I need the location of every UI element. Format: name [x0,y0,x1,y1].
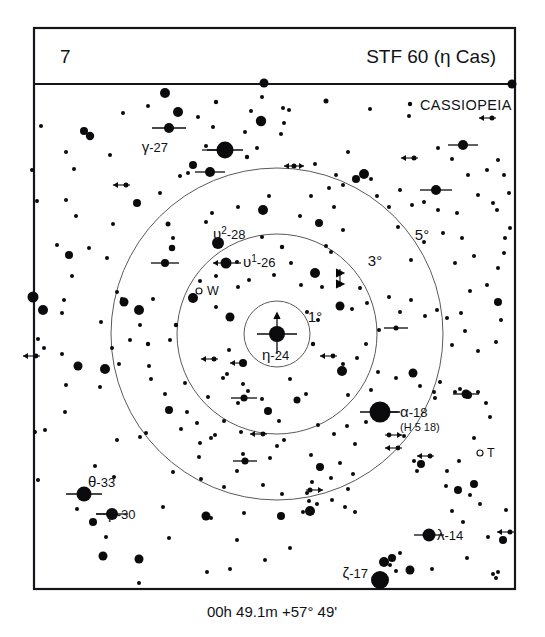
field-star-156 [351,472,355,476]
field-star-200 [458,387,462,391]
field-star-50 [188,293,198,303]
field-star-232 [450,343,454,347]
field-star-245 [455,211,459,215]
field-star-132 [288,377,292,381]
field-star-105 [210,211,214,215]
field-star-106 [204,220,208,224]
field-star-182 [508,530,513,535]
field-star-81 [167,536,171,540]
field-star-179 [478,502,482,506]
field-star-71 [43,428,47,432]
field-star-203 [488,415,492,419]
field-star-220 [365,301,369,305]
field-star-185 [468,493,472,497]
field-star-56 [42,346,46,350]
field-star-278-arrowhead-r [299,163,304,169]
field-star-230 [459,311,463,315]
degree-label-1deg: 1° [308,308,322,325]
field-star-88 [171,470,175,474]
field-star-164 [308,488,313,493]
field-star-100 [198,279,202,283]
field-star-158 [307,499,311,503]
field-star-61 [74,362,83,371]
field-star-131 [304,392,308,396]
field-star-112 [289,261,293,265]
field-star-59 [117,362,121,366]
field-star-47 [138,323,142,327]
field-star-137 [242,458,249,465]
field-star-58 [100,364,110,374]
alpha-18-number: -18 [409,405,428,420]
mu-30-number: -30 [117,507,136,522]
field-star-261 [466,173,470,177]
field-star-193-arrowhead [385,445,390,451]
field-star-283 [341,183,345,187]
field-star-254 [409,258,413,262]
field-star-161 [330,498,334,502]
field-star-142 [310,480,314,484]
field-star-210 [433,396,437,400]
coordinates-caption: 00h 49.1m +57° 49' [207,603,337,620]
star-upsilon1-arrowhead [213,260,218,266]
field-star-247 [431,185,441,195]
field-star-175 [465,556,469,560]
field-star-119-arrowhead [320,353,325,359]
field-star-3 [121,111,125,115]
field-star-282 [369,177,373,181]
field-star-109 [267,194,271,198]
field-star-216 [337,366,347,376]
field-star-151 [316,463,324,471]
field-star-170 [394,569,398,573]
field-star-146 [277,512,285,520]
field-star-134 [275,444,279,448]
field-star-294 [281,106,285,110]
field-star-96-arrowhead [230,360,235,366]
field-star-14 [243,130,247,134]
field-star-217 [369,388,373,392]
field-star-164-arrowhead [318,487,323,493]
field-star-130 [294,397,301,404]
field-star-76 [36,478,40,482]
field-star-73 [198,441,202,445]
field-star-83 [135,555,144,564]
field-star-127 [260,397,264,401]
eta-24-greek: η [262,346,270,363]
field-star-41 [120,298,129,307]
field-star-212 [462,390,471,399]
field-star-278 [292,164,297,169]
field-star-240 [502,251,506,255]
field-star-257 [476,193,480,197]
field-star-237 [485,283,489,287]
field-star-126 [236,401,240,405]
field-star-123 [241,382,245,386]
upsilon2-28-greek: υ [213,225,221,242]
field-star-141 [280,492,284,496]
alpha-designation: (H 5 18) [400,421,440,433]
field-star-122 [225,372,229,376]
field-star-301 [183,381,187,385]
field-star-241 [472,254,476,258]
star-W [196,288,202,294]
field-star-133-arrowhead [250,431,255,437]
star-labels: γ-27υ2-28υ1-26η-24α-18θ-33μ-30λ-14ζ-17 [88,138,463,581]
field-star-300 [60,352,64,356]
field-star-194 [412,459,416,463]
field-star-265 [496,158,500,162]
field-star-182-arrowhead [497,529,502,535]
field-star-196 [415,469,419,473]
field-star-264 [503,236,507,240]
field-star-70 [144,431,148,435]
field-star-93 [239,430,243,434]
field-star-281 [359,169,369,179]
field-star-23 [178,174,182,178]
field-star-267 [436,146,440,150]
field-star-225 [398,310,402,314]
field-star-168 [406,566,415,575]
field-star-276 [282,121,286,125]
field-star-279 [334,173,338,177]
field-star-231 [463,329,467,333]
star-zeta [371,571,389,589]
field-star-60 [147,364,151,368]
field-star-67 [165,406,173,414]
field-star-29 [74,214,78,218]
